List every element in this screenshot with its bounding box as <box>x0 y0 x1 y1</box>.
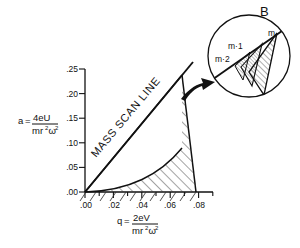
y-tick-label: .20 <box>66 89 78 99</box>
x-axis-label-numerator: 2eV <box>133 212 151 223</box>
y-axis-label-eq: = <box>25 115 31 126</box>
y-axis-label-numerator: 4eU <box>33 112 51 123</box>
x-tick-label: .04 <box>136 200 148 210</box>
mass-scan-line-label: MASS SCAN LINE <box>88 74 162 159</box>
x-axis-label-var: q <box>117 215 122 226</box>
x-tick-label: .06 <box>164 200 176 210</box>
y-tick-label: .15 <box>66 113 78 123</box>
x-tick-label: .02 <box>108 200 120 210</box>
x-tick-label: .00 <box>80 200 92 210</box>
x-axis-label-denominator: mr <box>132 225 143 236</box>
inset-label-m-plus-1: m·1 <box>228 41 243 51</box>
y-tick-label: .00 <box>66 187 78 197</box>
y-axis-label-var: a <box>18 115 24 126</box>
x-tick-label: .08 <box>193 200 205 210</box>
y-tick-label: .25 <box>66 64 78 74</box>
y-axis-label: a = 4eU mr 2 ω 2 <box>18 112 59 136</box>
inset-magnifier: m m·1 m·2 B <box>206 4 292 97</box>
mathieu-stability-diagram: .25 .20 .15 .10 .05 .00 .00 .02 .04 .06 … <box>0 0 300 248</box>
x-axis-label-eq: = <box>124 215 130 226</box>
y-axis-ticks <box>79 69 85 192</box>
inset-label-m-plus-2: m·2 <box>215 54 230 64</box>
x-axis-label: q = 2eV mr 2 ω 2 <box>117 212 159 236</box>
y-axis-label-denominator-omega-exp: 2 <box>55 125 59 131</box>
inset-label-m: m <box>268 28 275 38</box>
y-tick-label: .05 <box>66 162 78 172</box>
x-axis-label-denominator-omega-exp: 2 <box>155 225 159 231</box>
panel-label-b: B <box>260 4 269 19</box>
y-axis-label-denominator: mr <box>32 125 43 136</box>
callout-arrow <box>181 78 215 101</box>
y-tick-label: .10 <box>66 138 78 148</box>
figure-canvas: .25 .20 .15 .10 .05 .00 .00 .02 .04 .06 … <box>0 0 300 248</box>
